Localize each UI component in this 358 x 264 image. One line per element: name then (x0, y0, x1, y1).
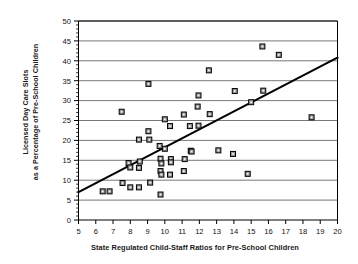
data-point-center (189, 125, 191, 127)
data-point-center (262, 90, 264, 92)
data-point-center (232, 153, 234, 155)
data-point-center (160, 170, 162, 172)
x-tick-label-11: 11 (178, 227, 186, 236)
data-point-center (148, 139, 150, 141)
gridlines (79, 21, 338, 200)
y-tick-label-35: 35 (63, 77, 71, 86)
scatter-chart-figure: Licensed Day Care Slots as a Percentage … (0, 0, 358, 264)
data-point-center (102, 191, 104, 193)
data-point-center (183, 114, 185, 116)
x-tick-label-5: 5 (76, 227, 80, 236)
trend-line (79, 58, 338, 193)
data-point-center (311, 117, 313, 119)
x-tick-label-14: 14 (230, 227, 238, 236)
data-point-center (148, 130, 150, 132)
x-axis-tick-labels: 567891011121314151617181920 (76, 227, 341, 236)
data-point-center (209, 113, 211, 115)
x-tick-label-7: 7 (111, 227, 115, 236)
data-point-center (218, 150, 220, 152)
x-tick-label-8: 8 (128, 227, 132, 236)
data-point-center (121, 111, 123, 113)
y-tick-label-25: 25 (63, 116, 71, 125)
data-point-center (138, 139, 140, 141)
data-point-center (198, 95, 200, 97)
data-point-center (197, 106, 199, 108)
y-tick-label-45: 45 (63, 37, 71, 46)
data-point-center (183, 170, 185, 172)
x-tick-label-15: 15 (247, 227, 255, 236)
data-point-center (278, 54, 280, 56)
data-point-center (130, 187, 132, 189)
x-tick-label-17: 17 (281, 227, 289, 236)
data-point-center (138, 187, 140, 189)
x-tick-label-6: 6 (94, 227, 98, 236)
data-point-center (148, 83, 150, 85)
x-axis-title: State Regulated Child-Staff Ratios for P… (40, 243, 350, 252)
data-point-center (191, 151, 193, 153)
data-point-center (138, 167, 140, 169)
y-tick-label-10: 10 (63, 176, 71, 185)
data-point-center (128, 162, 130, 164)
data-point-center (149, 182, 151, 184)
data-point-center (164, 119, 166, 121)
x-tick-label-18: 18 (299, 227, 307, 236)
y-tick-label-40: 40 (63, 57, 71, 66)
data-point-center (169, 174, 171, 176)
x-axis-ticks (79, 220, 338, 224)
data-point-center (262, 46, 264, 48)
data-point-center (169, 125, 171, 127)
x-tick-label-20: 20 (333, 227, 341, 236)
y-tick-label-5: 5 (67, 196, 71, 205)
data-point-center (161, 174, 163, 176)
x-tick-label-9: 9 (145, 227, 149, 236)
regression-line (79, 58, 338, 193)
plot-area: 05101520253035404550 5678910111213141516… (0, 0, 358, 264)
data-point-center (122, 182, 124, 184)
data-point-center (109, 191, 111, 193)
y-axis-ticks (74, 21, 79, 220)
data-point-center (130, 167, 132, 169)
data-point-center (139, 161, 141, 163)
y-tick-label-30: 30 (63, 96, 71, 105)
data-point-center (250, 101, 252, 103)
data-point-center (198, 125, 200, 127)
data-point-center (161, 163, 163, 165)
y-tick-label-0: 0 (67, 216, 71, 225)
data-point-center (170, 161, 172, 163)
x-tick-label-13: 13 (212, 227, 220, 236)
y-tick-label-15: 15 (63, 156, 71, 165)
x-tick-label-19: 19 (316, 227, 324, 236)
y-tick-label-50: 50 (63, 17, 71, 26)
y-axis-tick-labels: 05101520253035404550 (63, 17, 71, 225)
x-tick-label-10: 10 (161, 227, 169, 236)
x-tick-label-12: 12 (195, 227, 203, 236)
data-point-center (247, 173, 249, 175)
y-tick-label-20: 20 (63, 136, 71, 145)
data-point-center (234, 90, 236, 92)
data-point-center (208, 70, 210, 72)
data-point-center (184, 158, 186, 160)
data-point-center (159, 145, 161, 147)
data-point-center (164, 148, 166, 150)
x-tick-label-16: 16 (264, 227, 272, 236)
data-point-center (160, 158, 162, 160)
data-point-center (160, 194, 162, 196)
